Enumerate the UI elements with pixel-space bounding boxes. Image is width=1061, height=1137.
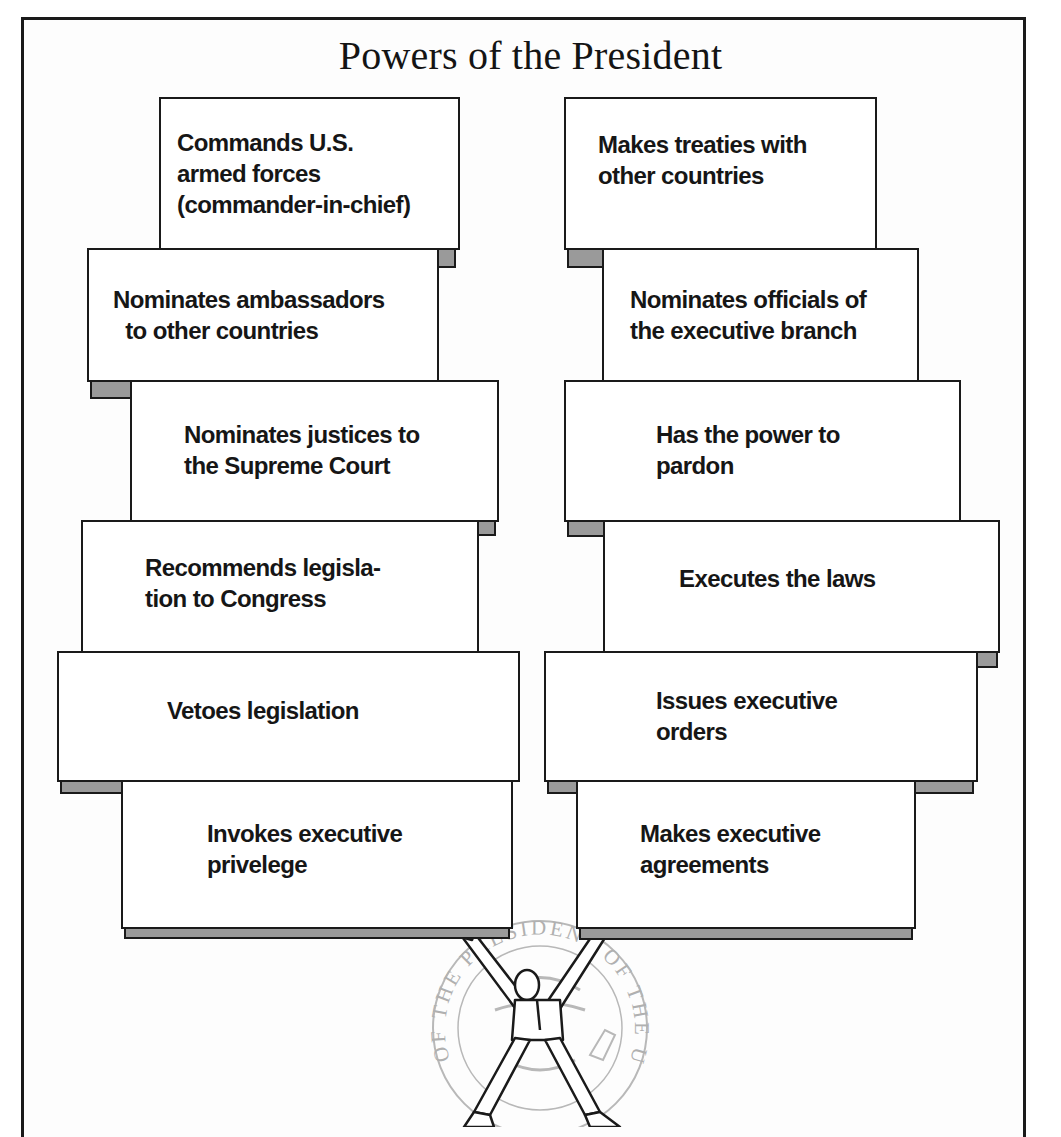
power-label: Recommends legisla- tion to Congress — [145, 552, 380, 614]
power-block-executive-orders: Issues executive orders — [544, 651, 978, 782]
power-block-vetoes-legislation: Vetoes legislation — [57, 651, 520, 782]
power-block-nominates-ambassadors: Nominates ambassadors to other countries — [87, 248, 439, 382]
power-block-executive-privilege: Invokes executive privelege — [121, 780, 513, 929]
power-label: Makes treaties with other countries — [598, 129, 807, 191]
power-block-nominates-officials: Nominates officials of the executive bra… — [602, 248, 919, 382]
power-label: Executes the laws — [679, 563, 876, 594]
power-label: Makes executive agreements — [640, 818, 820, 880]
power-label: Invokes executive privelege — [207, 818, 402, 880]
power-label: Nominates ambassadors to other countries — [113, 284, 385, 346]
power-block-nominates-justices: Nominates justices to the Supreme Court — [130, 380, 499, 522]
power-block-commander-in-chief: Commands U.S. armed forces (commander-in… — [159, 97, 460, 250]
power-block-makes-treaties: Makes treaties with other countries — [564, 97, 877, 250]
power-block-pardon: Has the power to pardon — [564, 380, 961, 522]
power-block-recommends-legislation: Recommends legisla- tion to Congress — [81, 520, 479, 653]
power-label: Issues executive orders — [656, 685, 837, 747]
power-label: Nominates justices to the Supreme Court — [184, 419, 419, 481]
power-label: Commands U.S. armed forces (commander-in… — [177, 127, 410, 220]
power-block-executive-agreements: Makes executive agreements — [576, 780, 916, 929]
power-block-executes-laws: Executes the laws — [603, 520, 1000, 653]
block-shadow — [90, 379, 134, 399]
power-label: Vetoes legislation — [167, 695, 359, 726]
power-label: Has the power to pardon — [656, 419, 840, 481]
power-label: Nominates officials of the executive bra… — [630, 284, 866, 346]
